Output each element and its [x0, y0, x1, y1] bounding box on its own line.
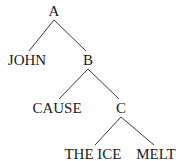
tree-node-b: B: [83, 52, 93, 68]
syntax-tree: AJOHNBCAUSECTHE ICEMELT: [0, 0, 176, 161]
tree-node-melt: MELT: [136, 146, 175, 161]
tree-node-john: JOHN: [8, 52, 47, 68]
tree-node-the-ice: THE ICE: [64, 146, 121, 161]
tree-edge-b-cause: [59, 69, 88, 99]
tree-edge-a-john: [29, 20, 54, 51]
tree-edge-c-the-ice: [95, 117, 121, 145]
tree-node-cause: CAUSE: [32, 100, 81, 116]
tree-edge-b-c: [88, 69, 119, 99]
tree-node-a: A: [49, 3, 60, 19]
tree-edge-a-b: [54, 20, 86, 51]
tree-node-c: C: [116, 100, 126, 116]
tree-edge-c-melt: [121, 117, 154, 145]
